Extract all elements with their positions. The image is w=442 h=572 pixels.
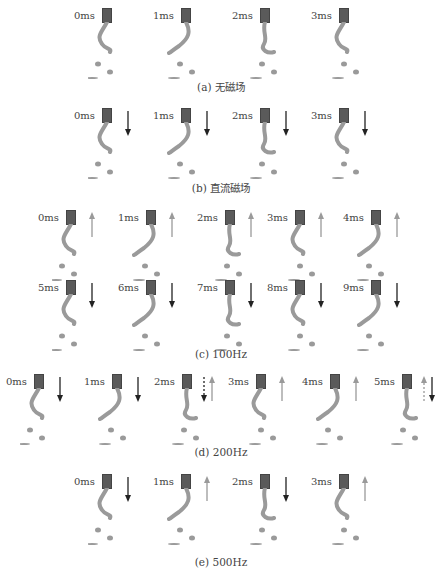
- time-label: 7ms: [197, 282, 218, 293]
- caption-c: (c) 100Hz: [0, 348, 442, 360]
- nozzle: [339, 108, 349, 123]
- field-arrow-icon: [164, 211, 180, 239]
- field-arrow-icon: [199, 109, 215, 137]
- nozzle: [260, 8, 270, 23]
- nozzle: [260, 108, 270, 123]
- field-arrow-icon: [84, 281, 100, 309]
- caption-d: (d) 200Hz: [0, 446, 442, 458]
- time-label: 0ms: [6, 376, 27, 387]
- liquid-jet: [325, 22, 365, 82]
- nozzle: [102, 8, 112, 23]
- field-arrow-icon: [389, 281, 405, 309]
- time-label: 0ms: [74, 10, 95, 21]
- time-label: 0ms: [38, 212, 59, 223]
- field-arrow-icon: [313, 281, 329, 309]
- nozzle: [181, 474, 191, 489]
- nozzle: [330, 374, 340, 389]
- nozzle: [34, 374, 44, 389]
- time-label: 2ms: [154, 376, 175, 387]
- caption-b: (b) 直流磁场: [0, 180, 442, 195]
- nozzle: [295, 210, 305, 225]
- field-arrow-icon: [199, 475, 215, 503]
- time-label: 5ms: [38, 282, 59, 293]
- caption-e: (e) 500Hz: [0, 556, 442, 568]
- time-label: 1ms: [153, 10, 174, 21]
- nozzle: [339, 474, 349, 489]
- caption-a: (a) 无磁场: [0, 79, 442, 94]
- field-arrow-icon: [420, 375, 436, 403]
- field-arrow-icon: [130, 375, 146, 403]
- time-label: 2ms: [232, 10, 253, 21]
- time-label: 3ms: [311, 10, 332, 21]
- time-label: 3ms: [311, 476, 332, 487]
- time-label: 3ms: [311, 110, 332, 121]
- nozzle: [146, 280, 156, 295]
- nozzle: [260, 474, 270, 489]
- time-label: 0ms: [74, 110, 95, 121]
- field-arrow-icon: [274, 375, 290, 403]
- nozzle: [102, 108, 112, 123]
- field-arrow-icon: [84, 211, 100, 239]
- liquid-jet: [246, 22, 286, 82]
- field-arrow-icon: [348, 375, 364, 403]
- field-arrow-icon: [243, 211, 259, 239]
- field-arrow-icon: [389, 211, 405, 239]
- field-arrow-icon: [357, 109, 373, 137]
- nozzle: [66, 210, 76, 225]
- time-label: 2ms: [197, 212, 218, 223]
- nozzle: [402, 374, 412, 389]
- field-arrow-icon: [52, 375, 68, 403]
- nozzle: [295, 280, 305, 295]
- time-label: 2ms: [232, 476, 253, 487]
- nozzle: [371, 210, 381, 225]
- field-arrow-icon: [164, 281, 180, 309]
- time-label: 2ms: [232, 110, 253, 121]
- time-label: 1ms: [118, 212, 139, 223]
- liquid-jet: [167, 22, 207, 82]
- nozzle: [225, 210, 235, 225]
- time-label: 1ms: [84, 376, 105, 387]
- nozzle: [339, 8, 349, 23]
- time-label: 0ms: [74, 476, 95, 487]
- field-arrow-icon: [278, 475, 294, 503]
- time-label: 6ms: [118, 282, 139, 293]
- nozzle: [181, 8, 191, 23]
- field-arrow-icon: [120, 475, 136, 503]
- time-label: 4ms: [343, 212, 364, 223]
- field-arrow-icon: [120, 109, 136, 137]
- nozzle: [66, 280, 76, 295]
- field-arrow-icon: [313, 211, 329, 239]
- field-arrow-icon: [243, 281, 259, 309]
- field-arrow-icon: [200, 375, 216, 403]
- time-label: 1ms: [153, 476, 174, 487]
- field-arrow-icon: [278, 109, 294, 137]
- time-label: 8ms: [267, 282, 288, 293]
- liquid-jet: [88, 22, 128, 82]
- nozzle: [371, 280, 381, 295]
- nozzle: [112, 374, 122, 389]
- nozzle: [181, 108, 191, 123]
- nozzle: [146, 210, 156, 225]
- nozzle: [225, 280, 235, 295]
- time-label: 4ms: [302, 376, 323, 387]
- time-label: 3ms: [228, 376, 249, 387]
- time-label: 9ms: [343, 282, 364, 293]
- nozzle: [102, 474, 112, 489]
- nozzle: [182, 374, 192, 389]
- time-label: 1ms: [153, 110, 174, 121]
- time-label: 5ms: [374, 376, 395, 387]
- nozzle: [256, 374, 266, 389]
- time-label: 3ms: [267, 212, 288, 223]
- field-arrow-icon: [357, 475, 373, 503]
